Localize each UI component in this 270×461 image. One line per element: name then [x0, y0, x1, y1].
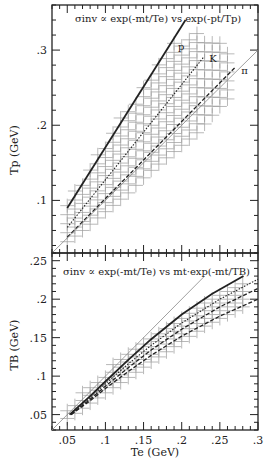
x-tick-label: .1: [100, 434, 111, 447]
upper-panel: .1.2.3pKπ: [37, 5, 259, 253]
lower-panel-title: σinv ∝ exp(-mt/Te) vs mt·exp(-mt/TB): [63, 266, 250, 277]
x-tick-label: .05: [59, 434, 77, 447]
upper-y-axis-label: Tp (GeV): [8, 125, 21, 175]
series-label-p: p: [178, 41, 184, 52]
y-tick-label: .2: [37, 293, 48, 306]
x-tick-label: .3: [253, 434, 264, 447]
y-tick-label: .25: [30, 255, 48, 268]
y-tick-label: .15: [30, 332, 48, 345]
y-tick-label: .1: [37, 370, 48, 383]
axis-ticks: [52, 5, 258, 253]
y-tick-label: .05: [30, 409, 48, 422]
error-bar-crosses: [60, 277, 249, 426]
series-pi: [67, 67, 236, 238]
two-panel-chart: .1.2.3pKπ .05.1.15.2.25.05.1.15.2.25.3 σ…: [0, 0, 270, 461]
x-tick-label: .25: [211, 434, 229, 447]
y-tick-label: .1: [37, 194, 48, 207]
lower-panel: .05.1.15.2.25.05.1.15.2.25.3: [30, 253, 264, 447]
physics-figure: .1.2.3pKπ .05.1.15.2.25.05.1.15.2.25.3 σ…: [0, 0, 270, 461]
plot-frame: [52, 5, 258, 253]
y-tick-label: .2: [37, 119, 48, 132]
lower-y-axis-label: TB (GeV): [8, 320, 21, 371]
x-axis-label: Te (GeV): [131, 446, 179, 459]
series-diagonal: [52, 50, 258, 253]
upper-panel-title: σinv ∝ exp(-mt/Te) vs exp(-pt/Tp): [75, 13, 241, 24]
series-diagonal: [52, 276, 205, 430]
series-label-pi: π: [241, 65, 248, 76]
series-label-K: K: [209, 53, 217, 64]
y-tick-label: .3: [37, 44, 48, 57]
